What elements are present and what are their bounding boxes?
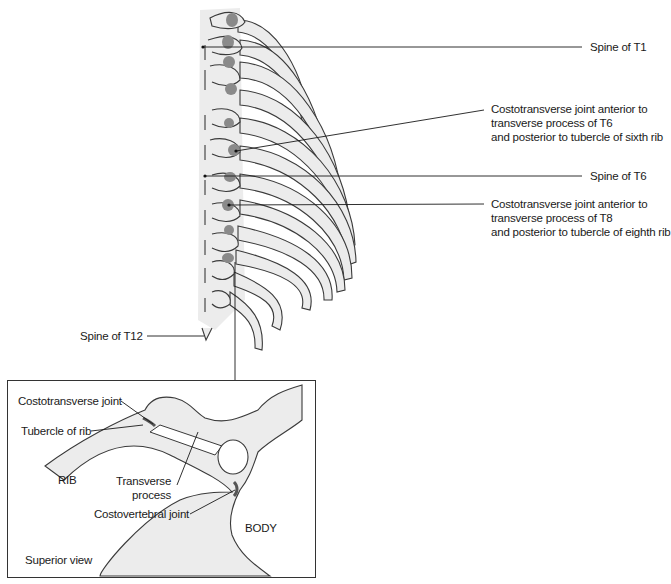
label-rib: RIB [58,473,77,487]
label-transverse-process-line1: Transverse [116,474,171,488]
label-spine-t1: Spine of T1 [590,40,646,54]
label-transverse-process: Transverse process [116,474,171,502]
label-spine-t12: Spine of T12 [80,329,143,343]
label-spine-t6: Spine of T6 [590,169,646,183]
label-body: BODY [245,521,277,535]
label-ctj-t8: Costotransverse joint anterior to transv… [491,197,671,239]
label-costotransverse-joint: Costotransverse joint [18,394,122,408]
ribs [230,20,356,350]
label-ctj-t8-line3: and posterior to tubercle of eighth rib [491,225,671,239]
label-ctj-t6: Costotransverse joint anterior to transv… [491,102,663,144]
label-ctj-t6-line1: Costotransverse joint anterior to [491,102,663,116]
label-transverse-process-line2: process [116,488,171,502]
label-tubercle-of-rib: Tubercle of rib [21,424,91,438]
label-ctj-t6-line3: and posterior to tubercle of sixth rib [491,130,663,144]
label-ctj-t8-line2: transverse process of T8 [491,211,671,225]
label-costovertebral-joint: Costovertebral joint [94,507,189,521]
label-ctj-t8-line1: Costotransverse joint anterior to [491,197,671,211]
label-superior-view: Superior view [25,553,92,567]
label-ctj-t6-line2: transverse process of T6 [491,116,663,130]
